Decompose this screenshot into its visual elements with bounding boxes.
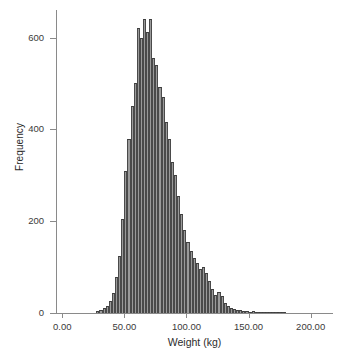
histogram-bar [283,312,286,313]
y-axis-label-text: Frequency [14,102,25,192]
x-tick-label: 200.00 [281,322,338,332]
x-tick-mark [186,313,187,318]
x-axis-label: Weight (kg) [56,336,333,348]
x-tick-mark [62,313,63,318]
y-tick-label: 200 [0,216,44,226]
plot-area [56,10,333,313]
y-tick-mark [50,313,56,314]
x-tick-label: 100.00 [156,322,216,332]
x-tick-mark [249,313,250,318]
x-tick-label: 0.00 [32,322,92,332]
x-tick-label: 50.00 [94,322,154,332]
x-tick-mark [124,313,125,318]
histogram-bars [56,10,333,313]
y-tick-label: 0 [0,308,44,318]
histogram-figure: 0200400600 0.0050.00100.00150.00200.00 F… [0,0,338,356]
x-tick-mark [311,313,312,318]
x-axis-line [56,313,333,314]
y-axis-label: Frequency [14,102,28,192]
x-tick-label: 150.00 [219,322,279,332]
y-tick-label: 600 [0,33,44,43]
